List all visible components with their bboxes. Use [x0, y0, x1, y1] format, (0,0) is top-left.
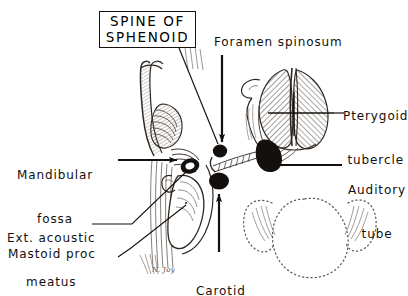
title-box: SPINE OF SPHENOID	[99, 11, 196, 48]
label-carotid-canal: Carotid canal	[196, 255, 246, 296]
carotid-canal-marker	[209, 172, 229, 189]
title-line-1: SPINE OF	[106, 14, 189, 30]
label-carotid-line-1: Carotid	[196, 284, 246, 296]
leader-spine-of-sphenoid	[179, 48, 218, 144]
spine-of-sphenoid-drawing	[141, 46, 203, 156]
label-auditory-tube: Auditory tube	[348, 154, 406, 271]
label-pterygoid-line-1: Pterygoid	[343, 109, 408, 124]
anatomy-figure: SPINE OF SPHENOID Foramen spinosum Ptery…	[0, 0, 408, 296]
pterygoid-region-drawing	[242, 68, 334, 166]
label-auditory-line-1: Auditory	[348, 183, 406, 198]
page-title: SPINE OF SPHENOID	[106, 14, 189, 46]
foramen-spinosum-marker	[213, 145, 227, 158]
label-auditory-line-2: tube	[348, 227, 406, 242]
title-line-2: SPHENOID	[106, 30, 189, 46]
label-mastoid-process: Mastoid proc	[8, 247, 96, 262]
artist-signature: N. Joy	[152, 266, 175, 274]
label-mandibular-line-1: Mandibular	[17, 168, 93, 183]
label-ext-acoustic-line-1: Ext. acoustic	[7, 231, 96, 246]
label-foramen-spinosum: Foramen spinosum	[214, 35, 343, 50]
label-ext-acoustic-line-2: meatus	[7, 275, 96, 290]
